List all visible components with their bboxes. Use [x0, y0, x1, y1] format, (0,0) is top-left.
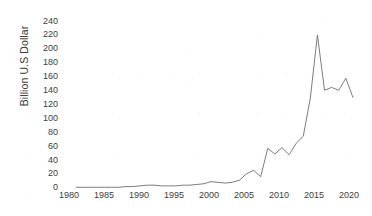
y-axis-tick: 40	[32, 156, 58, 165]
y-axis-tick: 240	[32, 17, 58, 26]
y-axis-tick: 160	[32, 72, 58, 81]
x-axis-tick: 1980	[49, 191, 89, 200]
x-axis-tick: 1995	[154, 191, 194, 200]
y-axis-tick: 180	[32, 58, 58, 67]
y-axis-tick: 20	[32, 169, 58, 178]
y-axis-tick: 140	[32, 86, 58, 95]
y-axis-tick: 60	[32, 142, 58, 151]
x-axis-tick: 2010	[259, 191, 299, 200]
x-axis-tick: 2020	[329, 191, 369, 200]
data-series-line	[76, 35, 353, 187]
x-axis-tick: 1990	[119, 191, 159, 200]
y-axis-tick-list: 240 220 200 180 160 140 120 100 80 60 40…	[28, 0, 58, 216]
y-axis-tick: 120	[32, 100, 58, 109]
y-axis-tick: 220	[32, 30, 58, 39]
x-axis-tick: 2000	[189, 191, 229, 200]
y-axis-tick: 80	[32, 128, 58, 137]
y-axis-tick: 200	[32, 44, 58, 53]
data-line-svg	[62, 18, 360, 188]
x-axis-tick: 2005	[224, 191, 264, 200]
line-chart: Billion U.S Dollar 240 220 200 180 160 1…	[0, 0, 372, 216]
x-axis-tick: 2015	[294, 191, 334, 200]
x-axis-tick: 1985	[84, 191, 124, 200]
plot-area	[62, 18, 360, 188]
y-axis-tick: 100	[32, 114, 58, 123]
